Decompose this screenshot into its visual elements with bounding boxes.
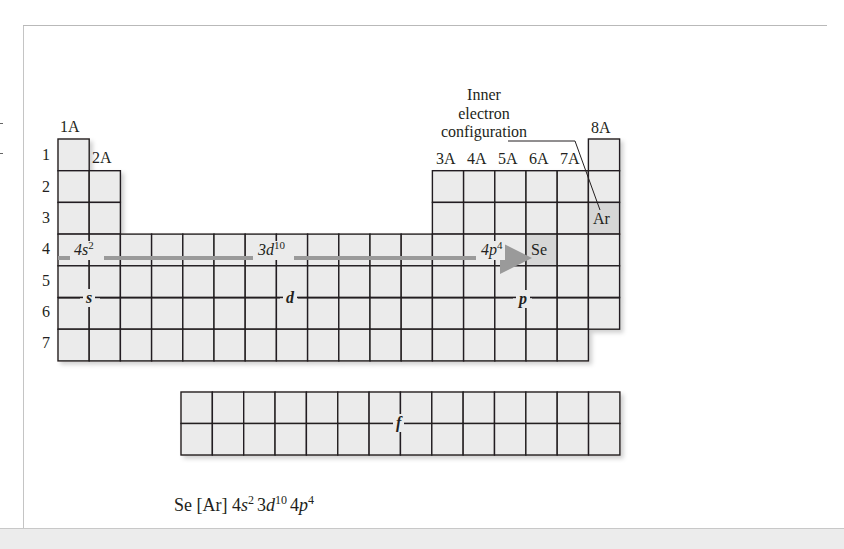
- period-label-7: 7: [42, 334, 50, 352]
- annotation-3d-base: 3d: [258, 241, 274, 258]
- callout-line-3: configuration: [419, 123, 549, 142]
- annotation-4s2: 4s2: [72, 241, 96, 260]
- group-label-4a: 4A: [467, 150, 487, 168]
- annotation-3d10: 3d10: [256, 241, 287, 260]
- annotation-4p-exponent: 4: [497, 239, 503, 251]
- group-label-6a: 6A: [529, 150, 549, 168]
- group-label-2a: 2A: [92, 149, 112, 167]
- inner-config-callout: Inner electron configuration: [419, 86, 549, 142]
- period-label-5: 5: [42, 272, 50, 290]
- block-label-p: p: [516, 290, 530, 308]
- group-label-5a: 5A: [498, 150, 518, 168]
- element-se: Se: [531, 241, 547, 259]
- caption-term-1: 4s2: [232, 495, 254, 515]
- electron-configuration-caption: Se [Ar] 4s23d104p4: [174, 494, 314, 518]
- annotation-4p-base: 4p: [481, 241, 497, 258]
- block-label-s: s: [83, 289, 95, 307]
- element-ar: Ar: [593, 210, 610, 228]
- period-label-1: 1: [42, 146, 50, 164]
- annotation-4s-exponent: 2: [88, 239, 94, 251]
- caption-core: [Ar]: [197, 495, 228, 515]
- annotation-3d-exponent: 10: [274, 239, 285, 251]
- annotation-4p4: 4p4: [479, 241, 505, 260]
- period-label-6: 6: [42, 303, 50, 321]
- group-label-8a: 8A: [591, 119, 611, 137]
- caption-element: Se: [174, 495, 192, 515]
- callout-line-1: Inner: [419, 86, 549, 105]
- group-label-1a: 1A: [60, 118, 80, 136]
- block-label-d: d: [283, 289, 297, 307]
- period-label-3: 3: [42, 209, 50, 227]
- period-label-2: 2: [42, 178, 50, 196]
- group-label-7a: 7A: [560, 150, 580, 168]
- caption-term-3: 4p4: [290, 495, 314, 515]
- group-label-3a: 3A: [436, 150, 456, 168]
- annotation-4s-base: 4s: [74, 241, 88, 258]
- period-label-4: 4: [42, 240, 50, 258]
- block-label-f: f: [393, 414, 404, 432]
- callout-line-2: electron: [419, 105, 549, 124]
- caption-term-2: 3d10: [257, 495, 287, 515]
